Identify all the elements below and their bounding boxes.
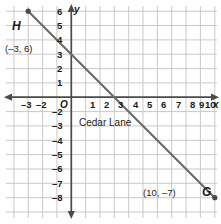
y-tick-1: 1 (57, 78, 62, 88)
x-tick-8: 8 (190, 100, 195, 110)
x-tick-7: 7 (176, 100, 181, 110)
y-tick-3: 3 (57, 50, 62, 60)
x-tick-9: 9 (199, 100, 204, 110)
x-tick-3: 3 (118, 100, 123, 110)
y-tick-4: 4 (57, 35, 62, 45)
x-tick-4: 4 (133, 100, 138, 110)
y-tick-neg3: –3 (52, 121, 63, 131)
y-tick-6: 6 (57, 7, 62, 17)
point-h-marker (26, 9, 31, 14)
point-g-marker (212, 195, 217, 200)
x-tick-1: 1 (90, 100, 95, 110)
x-tick-neg3: –3 (21, 100, 32, 110)
x-axis-left-arrow (4, 94, 12, 101)
horizontal-grid-lines (6, 11, 217, 212)
y-tick-neg4: –4 (52, 136, 63, 146)
y-axis-bottom-arrow (68, 211, 75, 219)
y-tick-neg6: –6 (52, 164, 63, 174)
y-axis-label: y (74, 5, 80, 15)
y-tick-neg7: –7 (52, 179, 63, 189)
x-tick-neg2: –2 (36, 100, 47, 110)
y-tick-neg5: –5 (52, 150, 63, 160)
y-tick-2: 2 (57, 64, 62, 74)
point-h-coords: (–3, 6) (5, 44, 32, 54)
origin-label: O (60, 100, 68, 110)
graph-canvas (0, 0, 221, 224)
coordinate-plane-figure: 6 5 4 3 2 1 –2 –3 –4 –5 –6 –7 –8 –3 –2 1… (0, 0, 221, 224)
y-tick-5: 5 (57, 21, 62, 31)
x-tick-5: 5 (147, 100, 152, 110)
y-tick-neg8: –8 (52, 193, 63, 203)
point-g-coords: (10, –7) (143, 188, 176, 198)
point-g-label: G (202, 186, 211, 198)
street-name-label: Cedar Lane (79, 118, 131, 128)
x-tick-2: 2 (104, 100, 109, 110)
x-tick-6: 6 (161, 100, 166, 110)
point-h-label: H (12, 20, 21, 32)
x-axis-label: x (213, 100, 219, 110)
